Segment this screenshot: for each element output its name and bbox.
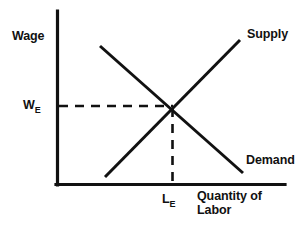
equilibrium-wage-subscript: E <box>35 105 41 115</box>
demand-curve-label: Demand <box>246 153 295 167</box>
supply-demand-diagram: Wage WE LE Supply Demand Quantity ofLabo… <box>0 0 306 232</box>
x-axis-label-line2: Labor <box>197 203 231 217</box>
equilibrium-wage-symbol: W <box>23 98 35 112</box>
equilibrium-quantity-label: LE <box>162 192 175 209</box>
x-axis-label-line1: Quantity of <box>197 189 262 203</box>
supply-curve-label: Supply <box>247 27 288 41</box>
x-axis-label: Quantity ofLabor <box>197 189 262 217</box>
equilibrium-wage-label: WE <box>23 98 41 115</box>
y-axis-label: Wage <box>12 29 44 43</box>
equilibrium-quantity-symbol: L <box>162 192 170 206</box>
equilibrium-quantity-subscript: E <box>170 199 176 209</box>
